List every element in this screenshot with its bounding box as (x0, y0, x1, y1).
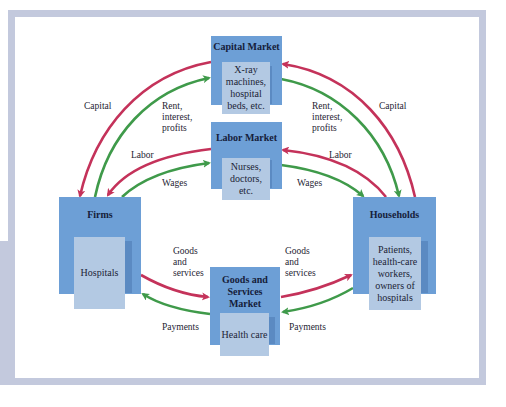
households-shadow (421, 241, 428, 293)
labor-market-title: Labor Market (211, 132, 282, 144)
goods-market-detail-box: Health care (220, 313, 269, 356)
labor-market-detail: Nurses, doctors, etc. (222, 161, 270, 197)
firms-detail-box: Hospitals (74, 237, 125, 309)
label-labor-right: Labor (329, 150, 352, 161)
label-labor-left: Labor (131, 150, 154, 161)
label-capital-left: Capital (84, 101, 111, 112)
payments-arrow-right (283, 288, 353, 312)
goods-market-detail: Health care (222, 329, 268, 341)
goods-market-shadow (269, 317, 275, 344)
capital-market-detail-box: X-ray machines, hospital beds, etc. (222, 62, 270, 114)
rent-arrow-left (95, 78, 209, 197)
labor-market-detail-box: Nurses, doctors, etc. (222, 158, 270, 200)
label-payments-right: Payments (289, 322, 326, 333)
capital-market-title: Capital Market (211, 41, 282, 53)
households-title: Households (353, 209, 436, 221)
label-wages-left: Wages (162, 178, 187, 189)
label-payments-left: Payments (162, 322, 199, 333)
capital-market-detail: X-ray machines, hospital beds, etc. (222, 64, 270, 112)
firms-shadow (125, 241, 132, 293)
households-detail-box: Patients, health-care workers, owners of… (369, 237, 421, 310)
firms-detail: Hospitals (81, 267, 119, 279)
label-rent-left: Rent, interest, profits (162, 101, 204, 134)
label-goods-right: Goods and services (285, 246, 325, 279)
label-wages-right: Wages (297, 178, 322, 189)
firms-title: Firms (59, 209, 141, 221)
label-goods-left: Goods and services (173, 246, 213, 279)
label-rent-right: Rent, interest, profits (312, 101, 354, 134)
labor-arrow-left (108, 149, 211, 195)
label-capital-right: Capital (379, 101, 406, 112)
households-detail: Patients, health-care workers, owners of… (371, 244, 419, 304)
goods-market-title: Goods and Services Market (210, 274, 280, 310)
